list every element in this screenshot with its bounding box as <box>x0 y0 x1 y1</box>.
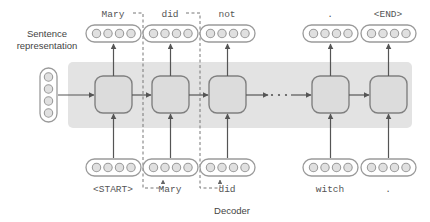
output-label-5: <END> <box>374 9 403 20</box>
decoder-diagram-svg: Sentence representation Mary did not . <… <box>0 0 430 222</box>
input-vector-3 <box>200 159 255 176</box>
sentence-representation-label-line2: representation <box>17 40 78 51</box>
output-vector-5 <box>361 25 416 42</box>
input-label-5: . <box>385 184 391 195</box>
input-label-1: <START> <box>93 184 133 195</box>
diagram-canvas: Sentence representation Mary did not . <… <box>0 0 430 222</box>
rnn-cell-2 <box>152 76 189 113</box>
input-vector-4 <box>303 159 358 176</box>
output-label-4: . <box>327 9 333 20</box>
input-vector-5 <box>361 159 416 176</box>
rnn-cell-1 <box>95 76 132 113</box>
rnn-cell-4 <box>312 76 349 113</box>
output-label-1: Mary <box>102 9 125 20</box>
input-label-2: Mary <box>159 184 182 195</box>
sentence-representation-label-line1: Sentence <box>27 28 67 39</box>
sentence-representation-vector <box>40 68 57 122</box>
rnn-cell-3 <box>209 76 246 113</box>
rnn-cell-5 <box>370 76 407 113</box>
output-vector-4 <box>303 25 358 42</box>
decoder-caption: Decoder <box>214 205 250 216</box>
output-vector-1 <box>86 25 141 42</box>
output-vector-3 <box>200 25 255 42</box>
output-vector-2 <box>143 25 198 42</box>
input-vector-1 <box>86 159 141 176</box>
input-vector-2 <box>143 159 198 176</box>
input-label-4: witch <box>316 184 345 195</box>
input-label-3: did <box>218 184 235 195</box>
output-label-2: did <box>161 9 178 20</box>
output-label-3: not <box>218 9 235 20</box>
